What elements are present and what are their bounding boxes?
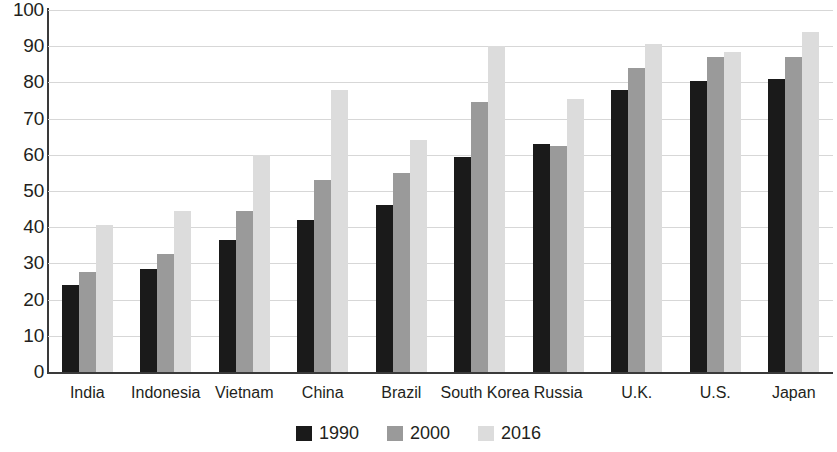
- x-axis-tick-label: U.K.: [598, 383, 677, 403]
- x-axis-tick-label: Vietnam: [205, 383, 284, 403]
- bar: [174, 211, 191, 372]
- legend-swatch-icon: [387, 426, 403, 441]
- legend-swatch-icon: [296, 426, 312, 441]
- y-axis-tick-labels: 1009080706050403020100: [0, 0, 44, 452]
- bar: [253, 155, 270, 372]
- bar: [96, 225, 113, 372]
- bar: [157, 254, 174, 372]
- bar: [690, 81, 707, 372]
- bar: [628, 68, 645, 372]
- bar-group: [768, 0, 819, 372]
- y-axis-tick-label: 60: [0, 145, 44, 164]
- bar: [314, 180, 331, 372]
- y-axis-tick-label: 80: [0, 72, 44, 91]
- legend-item[interactable]: 2016: [478, 424, 541, 442]
- bar-group: [297, 0, 348, 372]
- bar-group: [690, 0, 741, 372]
- x-axis-tick-label: U.S.: [676, 383, 755, 403]
- y-axis-tick-label: 70: [0, 109, 44, 128]
- bar: [331, 90, 348, 372]
- y-axis-tick-label: 10: [0, 326, 44, 345]
- x-axis-tick-label: Japan: [755, 383, 834, 403]
- legend-label: 2016: [501, 424, 541, 442]
- legend-swatch-icon: [478, 426, 494, 441]
- x-axis-tick-label: Indonesia: [127, 383, 206, 403]
- bar: [393, 173, 410, 372]
- y-axis-tick-label: 40: [0, 217, 44, 236]
- x-axis-tick-label: China: [284, 383, 363, 403]
- bar-chart: 1009080706050403020100 IndiaIndonesiaVie…: [0, 0, 837, 452]
- bar: [611, 90, 628, 372]
- x-axis-tick-label: Russia: [519, 383, 598, 403]
- x-axis-tick-label: South Korea: [441, 383, 520, 403]
- bar: [707, 57, 724, 372]
- bar-group: [376, 0, 427, 372]
- bar-group: [533, 0, 584, 372]
- bar: [297, 220, 314, 372]
- bar: [140, 269, 157, 372]
- bar: [236, 211, 253, 372]
- bar: [645, 44, 662, 372]
- legend-label: 2000: [410, 424, 450, 442]
- legend-item[interactable]: 2000: [387, 424, 450, 442]
- y-axis-tick-label: 100: [0, 0, 44, 19]
- bar: [79, 272, 96, 372]
- bar: [454, 157, 471, 372]
- bar-group: [611, 0, 662, 372]
- y-axis-tick-label: 30: [0, 253, 44, 272]
- y-axis-tick-label: 50: [0, 181, 44, 200]
- bars-layer: [48, 0, 833, 372]
- x-axis-tick-label: India: [48, 383, 127, 403]
- bar: [471, 102, 488, 372]
- chart-legend: 199020002016: [0, 424, 837, 442]
- bar: [567, 99, 584, 372]
- bar-group: [219, 0, 270, 372]
- legend-item[interactable]: 1990: [296, 424, 359, 442]
- bar-group: [62, 0, 113, 372]
- bar-group: [454, 0, 505, 372]
- bar: [62, 285, 79, 372]
- y-axis-tick-label: 90: [0, 36, 44, 55]
- bar: [802, 32, 819, 372]
- x-axis-baseline: [48, 372, 833, 374]
- bar: [376, 205, 393, 372]
- x-axis-tick-label: Brazil: [362, 383, 441, 403]
- bar: [488, 46, 505, 372]
- y-axis-tick-label: 0: [0, 362, 44, 381]
- bar: [410, 140, 427, 372]
- y-axis-tick-label: 20: [0, 290, 44, 309]
- bar: [724, 52, 741, 372]
- legend-label: 1990: [319, 424, 359, 442]
- bar: [219, 240, 236, 372]
- bar: [768, 79, 785, 372]
- bar-group: [140, 0, 191, 372]
- bar: [533, 144, 550, 372]
- bar: [550, 146, 567, 372]
- bar: [785, 57, 802, 372]
- x-axis-tick-labels: IndiaIndonesiaVietnamChinaBrazilSouth Ko…: [48, 383, 833, 409]
